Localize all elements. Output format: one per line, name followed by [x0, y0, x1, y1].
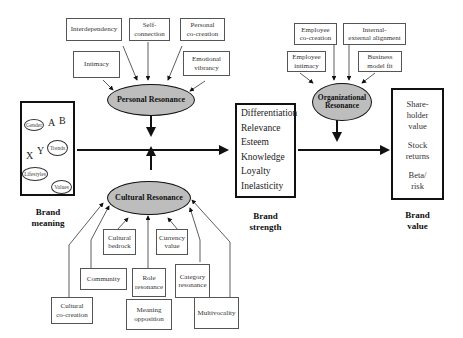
node-trends: Trends	[47, 140, 68, 156]
value-item: Share- holder value	[391, 99, 444, 132]
input-cultural-bedrock: Cultural bedrock	[103, 229, 136, 255]
personal-resonance-node: Personal Resonance	[107, 84, 195, 116]
input-employee-intimacy: Employee intimacy	[287, 51, 326, 72]
input-employee-co-creation: Employee co-creation	[294, 23, 337, 45]
value-item: Beta/ risk	[391, 170, 444, 192]
organizational-resonance-node: Organizational Resonance	[312, 83, 372, 121]
letter-a: A	[48, 117, 55, 128]
input-cultural-co-creation: Cultural co-creation	[51, 297, 93, 324]
input-community: Community	[80, 268, 127, 290]
input-self-connection: Self- connection	[129, 18, 170, 41]
strength-item: Inelasticity	[241, 179, 297, 194]
value-item: Stock returns	[391, 140, 444, 162]
letter-y: Y	[37, 145, 44, 156]
input-role-resonance: Role resonance	[132, 268, 166, 297]
brand-strength-list: Differentiation Relevance Esteem Knowled…	[241, 106, 297, 193]
input-intimacy: Intimacy	[73, 51, 120, 78]
input-personal-co-creation: Personal co-creation	[180, 18, 225, 41]
node-gender: Gender	[24, 119, 44, 131]
cultural-resonance-node: Cultural Resonance	[107, 181, 191, 215]
brand-value-list: Share- holder value Stock returns Beta/ …	[391, 99, 444, 192]
letter-b: B	[59, 115, 66, 126]
input-category-resonance: Category resonance	[175, 264, 210, 298]
node-lifestyles: Lifestyles	[22, 167, 48, 181]
input-business-model-fit: Business model fit	[358, 51, 402, 72]
input-interdependency: Interdependency	[66, 18, 122, 41]
strength-item: Esteem	[241, 135, 297, 150]
input-currency-value: Currency value	[156, 229, 188, 255]
input-meaning-opposition: Meaning opposition	[126, 299, 172, 330]
brand-value-caption: Brand value	[389, 210, 446, 232]
brand-meaning-caption: Brand meaning	[18, 207, 78, 229]
input-emotional-vibrancy: Emotional vibrancy	[183, 51, 230, 76]
node-values: Values	[51, 180, 72, 194]
input-multivocality: Multivocality	[194, 297, 239, 329]
input-internal-external-alignment: Internal- external alignment	[343, 23, 406, 45]
letter-x: X	[26, 150, 33, 161]
strength-item: Knowledge	[241, 150, 297, 165]
strength-item: Relevance	[241, 121, 297, 136]
strength-item: Loyalty	[241, 164, 297, 179]
brand-strength-caption: Brand strength	[235, 211, 296, 233]
strength-item: Differentiation	[241, 106, 297, 121]
